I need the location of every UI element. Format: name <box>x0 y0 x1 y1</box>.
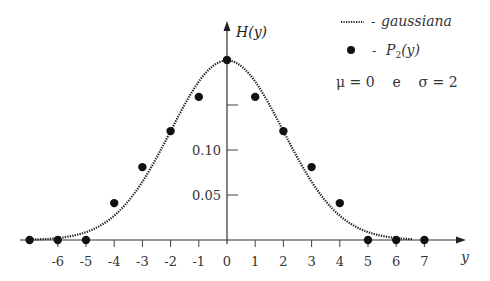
x-tick-label: -2 <box>164 254 177 269</box>
x-tick-label: -6 <box>51 254 64 269</box>
data-point <box>25 236 33 244</box>
x-tick-label: -5 <box>80 254 93 269</box>
x-tick-label: 6 <box>392 254 400 269</box>
data-point <box>336 199 344 207</box>
params-annotation: μ = 0 e σ = 2 <box>336 74 458 90</box>
data-point <box>279 127 287 135</box>
x-axis-arrow-icon <box>456 237 466 244</box>
legend-p2-arg: (y) <box>401 42 420 58</box>
legend: - gaussiana - P2(y) μ = 0 e σ = 2 <box>336 13 458 90</box>
data-point <box>223 56 231 64</box>
data-point <box>166 127 174 135</box>
y-tick-label: 0.10 <box>192 143 221 158</box>
y-ticks: 0.050.10 <box>192 105 238 203</box>
legend-p2-label: P2(y) <box>385 42 420 60</box>
x-tick-label: -4 <box>108 254 121 269</box>
data-point <box>195 93 203 101</box>
x-tick-label: 1 <box>251 254 259 269</box>
x-tick-label: 4 <box>336 254 344 269</box>
y-tick-label: 0.05 <box>192 188 221 203</box>
data-point <box>392 236 400 244</box>
x-tick-label: -1 <box>192 254 205 269</box>
legend-gauss-label: gaussiana <box>381 13 452 29</box>
gaussian-chart: -6-5-4-3-2-101234567 0.050.10 H(y) y - g… <box>0 0 490 281</box>
data-point <box>251 93 259 101</box>
data-point <box>82 236 90 244</box>
data-point <box>110 199 118 207</box>
data-point <box>54 236 62 244</box>
x-tick-label: -3 <box>136 254 149 269</box>
x-tick-label: 3 <box>307 254 315 269</box>
data-point <box>420 236 428 244</box>
x-axis-label: y <box>460 249 470 265</box>
x-tick-label: 5 <box>364 254 372 269</box>
y-axis-arrow-icon <box>224 21 231 31</box>
data-point <box>364 236 372 244</box>
data-point <box>307 163 315 171</box>
legend-p2-dash: - <box>372 43 376 58</box>
legend-dot-icon <box>347 46 355 54</box>
legend-gauss-dash: - <box>371 14 375 29</box>
x-tick-label: 7 <box>420 254 428 269</box>
x-tick-label: 0 <box>223 254 231 269</box>
x-ticks: -6-5-4-3-2-101234567 <box>51 240 428 269</box>
data-point <box>138 163 146 171</box>
x-tick-label: 2 <box>279 254 287 269</box>
y-axis-label: H(y) <box>235 24 267 40</box>
legend-p2-main: P <box>385 42 396 58</box>
